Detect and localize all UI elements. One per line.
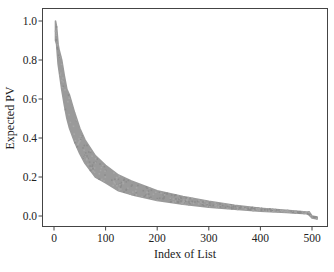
data-point (118, 187, 120, 189)
data-point (316, 218, 318, 220)
data-point (295, 210, 297, 212)
data-point (61, 80, 63, 82)
data-point (146, 186, 148, 188)
data-point (207, 205, 209, 207)
data-point (185, 197, 187, 199)
data-point (118, 176, 120, 178)
plot-frame (43, 9, 328, 227)
data-point (282, 210, 284, 212)
data-point (83, 150, 85, 152)
data-point (204, 200, 206, 202)
data-point (120, 186, 122, 188)
data-point (298, 212, 300, 214)
data-point (62, 81, 64, 83)
data-point (126, 189, 128, 191)
data-point (234, 206, 236, 208)
y-tick-label: 0.4 (23, 132, 38, 144)
data-point (273, 211, 275, 213)
data-point (222, 205, 224, 207)
data-point (70, 122, 72, 124)
data-point (68, 97, 70, 99)
data-point (159, 197, 161, 199)
data-point (94, 167, 96, 169)
data-point (149, 187, 151, 189)
data-point (220, 206, 222, 208)
data-point (128, 180, 130, 182)
data-point (137, 185, 139, 187)
data-point (192, 198, 194, 200)
data-point (250, 209, 252, 211)
data-point (61, 64, 63, 66)
data-point (131, 185, 133, 187)
data-point (237, 207, 239, 209)
data-point (135, 190, 137, 192)
data-point (303, 213, 305, 215)
data-point (143, 190, 145, 192)
data-point (180, 198, 182, 200)
data-point (209, 206, 211, 208)
data-point (294, 212, 296, 214)
data-point (60, 57, 62, 59)
data-point (126, 181, 128, 183)
x-tick-label: 400 (252, 232, 270, 244)
data-point (99, 163, 101, 165)
data-point (233, 205, 235, 207)
data-point (155, 191, 157, 193)
data-point (308, 212, 310, 214)
data-point (56, 39, 58, 41)
data-point (203, 205, 205, 207)
data-point (215, 204, 217, 206)
data-point (144, 196, 146, 198)
data-point (86, 155, 88, 157)
data-point (188, 197, 190, 199)
data-point (225, 207, 227, 209)
data-point (124, 179, 126, 181)
x-tick-label: 500 (303, 232, 321, 244)
data-point (123, 191, 125, 193)
data-point (209, 205, 211, 207)
data-point (183, 201, 185, 203)
data-point (146, 187, 148, 189)
data-point (287, 211, 289, 213)
data-point (198, 200, 200, 202)
y-tick-label: 1.0 (23, 15, 38, 27)
data-point (146, 191, 148, 193)
data-point (173, 201, 175, 203)
data-point (77, 146, 79, 148)
data-point (148, 193, 150, 195)
data-point (247, 208, 249, 210)
data-point (74, 142, 76, 144)
data-point (116, 177, 118, 179)
data-point (101, 179, 103, 181)
data-point (84, 145, 86, 147)
data-point (82, 147, 84, 149)
data-point (260, 210, 262, 212)
data-point (55, 34, 57, 36)
data-point (90, 152, 92, 154)
data-point (287, 210, 289, 212)
data-point (209, 202, 211, 204)
data-point (157, 198, 159, 200)
data-point (60, 74, 62, 76)
data-point (65, 109, 67, 111)
data-point (184, 203, 186, 205)
data-point (132, 191, 134, 193)
data-point (58, 55, 60, 57)
data-point (151, 190, 153, 192)
data-point (104, 170, 106, 172)
data-point (63, 86, 65, 88)
data-point (104, 166, 106, 168)
data-point (87, 164, 89, 166)
data-point (82, 135, 84, 137)
data-point (95, 162, 97, 164)
x-tick-label: 300 (200, 232, 218, 244)
data-point (198, 203, 200, 205)
data-point (280, 209, 282, 211)
data-point (68, 114, 70, 116)
data-point (96, 158, 98, 160)
data-point (57, 44, 59, 46)
y-tick-label: 0.8 (23, 54, 38, 66)
y-tick-label: 0.2 (23, 171, 38, 183)
x-tick-label: 0 (51, 232, 57, 244)
data-point (91, 166, 93, 168)
